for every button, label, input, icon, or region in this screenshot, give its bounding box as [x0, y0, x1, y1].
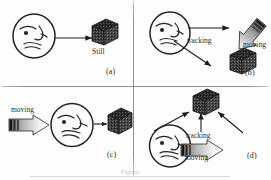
cube-label-still: Still: [92, 47, 105, 56]
motion-arrow-c[interactable]: [7, 114, 53, 136]
bottom-rule: [30, 176, 230, 177]
cube-c: [106, 106, 134, 136]
figure-canvas: Still (a) tracking: [0, 0, 271, 180]
motion-arrow-b[interactable]: [229, 15, 271, 57]
panel-label-c: (c): [107, 150, 116, 159]
panel-label-b: (b): [245, 68, 255, 77]
cube-a: [90, 17, 120, 47]
label-moving-c: moving: [11, 105, 34, 114]
tracking-arrow-right-d[interactable]: [215, 109, 251, 137]
panel-a: Still (a): [0, 0, 134, 86]
panel-label-a: (a): [106, 67, 115, 76]
label-moving-b: moving: [243, 40, 266, 49]
tracking-arrow-lower-b[interactable]: [173, 40, 221, 74]
panel-label-d: (d): [247, 151, 257, 160]
panel-d: tracking moving (d): [135, 87, 271, 165]
face-c: [49, 102, 99, 150]
figure-caption: Figure: [30, 168, 230, 176]
label-moving-d: moving: [185, 153, 208, 162]
panel-b: tracking moving (b): [135, 0, 271, 86]
panel-c: moving (c): [0, 87, 134, 165]
